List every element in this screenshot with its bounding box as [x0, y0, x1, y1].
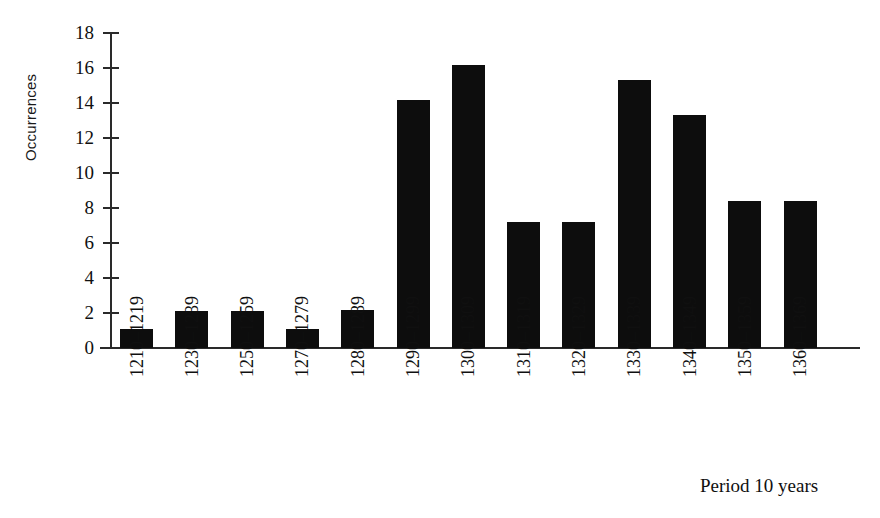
x-axis-tick-label: 1290–1299: [403, 265, 423, 377]
x-axis-tick-label: 1300–1309: [458, 265, 478, 377]
x-axis-tick-label: 1360–1369: [790, 265, 810, 377]
x-axis-tick-label: 1310–1319: [514, 265, 534, 377]
x-axis-tick-label: 1350–1359: [735, 265, 755, 377]
x-axis-tick-label: 1210–1219: [127, 265, 147, 377]
x-axis-tick-label: 1250–1259: [237, 265, 257, 377]
x-axis-title: Period 10 years: [700, 475, 818, 497]
x-axis-tick-label: 1270–1279: [292, 265, 312, 377]
bar-chart-figure: Occurrences 024681012141618 1210–1219123…: [0, 0, 880, 518]
x-axis-tick-label: 1280–1289: [348, 265, 368, 377]
x-axis-tick-label: 1320–1329: [569, 265, 589, 377]
x-axis-tick-label: 1230–1239: [182, 265, 202, 377]
plot-area: 1210–12191230–12391250–12591270–12791280…: [0, 0, 880, 518]
x-axis-tick-label: 1330–1339: [624, 265, 644, 377]
x-axis-tick-label: 1340–1349: [680, 265, 700, 377]
